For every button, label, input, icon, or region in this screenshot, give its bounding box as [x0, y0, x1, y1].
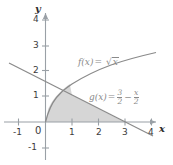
fraction-denominator: 2	[117, 97, 122, 106]
fraction-numerator: 3	[117, 89, 122, 97]
y-tick-label-1: 1	[33, 91, 39, 100]
sqrt-expression: √x	[103, 57, 119, 67]
x-tick-label-2: 2	[96, 128, 102, 137]
y-tick-label-3: 3	[33, 41, 39, 50]
minus-operator: −	[123, 92, 133, 102]
y-tick-label-2: 2	[33, 66, 39, 75]
fraction-denominator: 2	[134, 97, 139, 106]
x-tick-label-0: 0	[35, 126, 41, 136]
fraction-x-over-two: x2	[134, 89, 139, 106]
function-label-f-name: f(x)	[78, 57, 93, 67]
y-axis-label: y	[35, 4, 41, 14]
function-label-g-equals: =	[107, 92, 117, 102]
x-tick-label-1: 1	[69, 128, 75, 137]
x-tick-label-neg1: -1	[13, 128, 22, 137]
x-tick-label-3: 3	[122, 128, 128, 137]
plot-canvas	[0, 0, 173, 165]
fraction-numerator: x	[134, 89, 139, 97]
radicand-x: x	[112, 57, 119, 67]
y-axis-arrow	[43, 13, 48, 19]
function-label-g: g(x)=32−x2	[89, 89, 140, 106]
function-label-g-name: g(x)	[89, 92, 107, 102]
math-plot-figure: y x 4 3 2 1 -1 -1 0 1 2 3 4 f(x)=√x g(x)…	[0, 0, 173, 165]
x-axis-arrow	[150, 119, 156, 124]
x-axis-label: x	[159, 124, 165, 134]
function-label-f-equals: =	[93, 57, 103, 67]
y-tick-label-4: 4	[33, 15, 39, 24]
fraction-three-halves: 32	[117, 89, 122, 106]
y-tick-label-neg1: -1	[28, 143, 37, 152]
x-tick-label-4: 4	[148, 128, 154, 137]
function-label-f: f(x)=√x	[78, 57, 119, 67]
